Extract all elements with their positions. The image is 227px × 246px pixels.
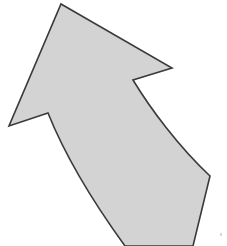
image-canvas (0, 0, 227, 246)
curved-arrow-shape-svg (0, 0, 227, 246)
speck-mark (220, 233, 222, 236)
curved-arrow-path (9, 4, 210, 246)
